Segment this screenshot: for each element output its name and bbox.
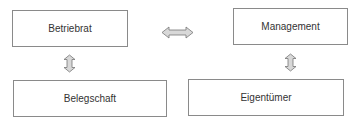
node-management: Management	[233, 8, 348, 45]
double-arrow-horizontal-icon	[161, 26, 194, 39]
double-arrow-vertical-icon	[284, 53, 297, 72]
node-label: Management	[261, 21, 319, 32]
node-label: Belegschaft	[64, 93, 116, 104]
node-belegschaft: Belegschaft	[13, 80, 167, 117]
double-arrow-vertical-icon	[63, 54, 76, 73]
node-label: Eigentümer	[240, 92, 291, 103]
node-label: Betriebrat	[48, 23, 91, 34]
node-betriebrat: Betriebrat	[12, 10, 128, 47]
node-eigentuemer: Eigentümer	[188, 79, 344, 116]
